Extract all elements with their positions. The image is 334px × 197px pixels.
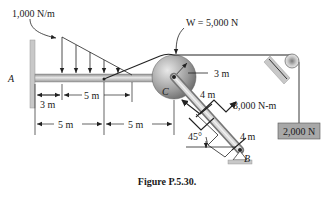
distributed-load — [62, 37, 132, 75]
dim-5m-top-label: 5 m — [84, 90, 100, 101]
dimension-lines — [35, 82, 174, 135]
weight-label: W = 5,000 N — [186, 17, 238, 28]
weight-arrow — [176, 28, 184, 54]
figure-caption: Figure P.5.30. — [138, 176, 197, 187]
arm-lower-label: 4 m — [240, 131, 256, 142]
hanging-weight-box: 2,000 N — [278, 123, 320, 139]
statics-figure: 1,000 N/m 2,000 N — [0, 0, 334, 197]
wall-support-a — [30, 40, 35, 108]
moment-label: 3,000 N-m — [233, 100, 277, 111]
svg-text:2,000 N: 2,000 N — [283, 126, 315, 137]
svg-text:45°: 45° — [188, 131, 202, 142]
small-pulley — [264, 54, 299, 84]
svg-text:1,000 N/m: 1,000 N/m — [12, 8, 55, 19]
inclined-arm — [172, 75, 240, 150]
dim-3m-label: 3 m — [40, 99, 56, 110]
dim-5m-left-label: 5 m — [58, 119, 74, 130]
dim-5m-right-label: 5 m — [128, 119, 144, 130]
radius-label: 3 m — [214, 68, 230, 79]
point-b-label: B — [244, 153, 250, 164]
distributed-load-label: 1,000 N/m — [12, 8, 56, 38]
arm-upper-label: 4 m — [200, 89, 216, 100]
point-a-label: A — [7, 73, 15, 84]
point-c-label: C — [162, 86, 169, 97]
